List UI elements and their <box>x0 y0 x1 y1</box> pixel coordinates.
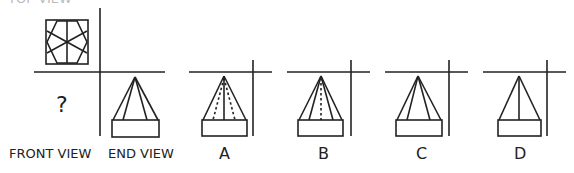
front-view-label: FRONT VIEW <box>9 146 91 161</box>
top-view-hexagon <box>46 20 88 64</box>
option-a-label[interactable]: A <box>219 144 230 163</box>
option-c-label[interactable]: C <box>416 144 427 163</box>
option-d-label[interactable]: D <box>514 144 526 163</box>
end-view-pyramid <box>112 77 159 137</box>
option-a-drawing[interactable] <box>189 60 272 136</box>
option-b-label[interactable]: B <box>318 144 329 163</box>
unknown-front-view-mark: ? <box>56 92 68 117</box>
orthographic-projection-question: TOP VIEW <box>0 0 574 173</box>
option-b-drawing[interactable] <box>287 60 370 136</box>
end-view-label: END VIEW <box>108 146 174 161</box>
option-c-drawing[interactable] <box>385 60 468 136</box>
option-d-drawing[interactable] <box>483 60 566 136</box>
